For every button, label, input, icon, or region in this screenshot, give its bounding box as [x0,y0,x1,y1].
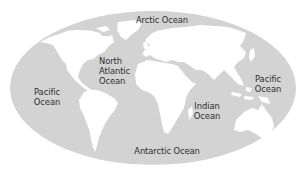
label-line: Arctic Ocean [136,15,188,25]
label-line: Indian [194,101,220,111]
label-line: Pacific [34,87,60,97]
label-line: Pacific [255,74,281,84]
island-new-zealand [276,132,286,146]
label-north-atlantic-ocean: North Atlantic Ocean [99,56,130,86]
label-line: Ocean [99,76,130,86]
label-line: North [99,56,130,66]
label-pacific-ocean-east: Pacific Ocean [255,74,281,94]
label-line: Antarctic Ocean [134,146,199,156]
label-indian-ocean: Indian Ocean [194,101,220,121]
label-pacific-ocean-west: Pacific Ocean [34,87,60,107]
label-line: Ocean [194,111,220,121]
label-arctic-ocean: Arctic Ocean [136,15,188,25]
world-map: Arctic Ocean North Atlantic Ocean Pacifi… [0,0,302,177]
label-line: Ocean [255,84,281,94]
label-line: Atlantic [99,66,130,76]
label-line: Ocean [34,97,60,107]
label-antarctic-ocean: Antarctic Ocean [134,146,199,156]
